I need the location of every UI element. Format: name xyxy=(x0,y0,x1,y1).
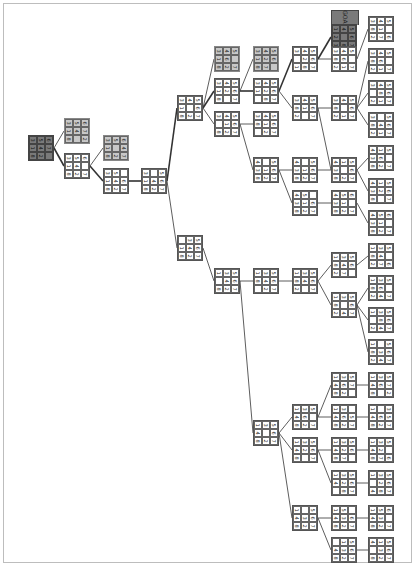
tree-node: 34512687 xyxy=(253,46,279,72)
puzzle-tile: 7 xyxy=(309,174,317,182)
puzzle-tile: 7 xyxy=(270,285,278,293)
puzzle-tile: 6 xyxy=(270,87,278,95)
puzzle-tile: 3 xyxy=(142,169,150,177)
tree-node: 34586217 xyxy=(331,95,357,121)
puzzle-tile: 7 xyxy=(309,421,317,429)
puzzle-tile: 5 xyxy=(270,269,278,277)
puzzle-tile: 5 xyxy=(348,47,356,55)
tree-edge xyxy=(357,256,368,265)
tree-node: 13526487 xyxy=(368,470,394,496)
tree-edge xyxy=(318,37,331,59)
puzzle-tile: 1 xyxy=(104,144,112,152)
blank-tile xyxy=(385,284,393,292)
puzzle-tile: 5 xyxy=(231,47,239,55)
puzzle-tile: 7 xyxy=(348,487,356,495)
puzzle-tile: 7 xyxy=(348,174,356,182)
puzzle-tile: 7 xyxy=(385,421,393,429)
puzzle-tile: 2 xyxy=(37,152,45,160)
puzzle-tile: 2 xyxy=(385,389,393,397)
tree-node: 45316827 xyxy=(292,157,318,183)
puzzle-tile: 6 xyxy=(348,479,356,487)
blank-tile xyxy=(348,269,356,277)
puzzle-tile: 6 xyxy=(385,187,393,195)
tree-node: 35146827 xyxy=(103,168,129,194)
tree-node: 34586217 xyxy=(368,80,394,106)
tree-edge xyxy=(240,281,253,433)
puzzle-tile: 6 xyxy=(309,199,317,207)
tree-node: 45631827 xyxy=(368,210,394,236)
puzzle-tile: 6 xyxy=(270,277,278,285)
tree-node: 41536827 xyxy=(368,145,394,171)
puzzle-tile: 7 xyxy=(309,285,317,293)
tree-edge xyxy=(357,108,368,125)
puzzle-tile: 5 xyxy=(385,471,393,479)
tree-node: 34586217 xyxy=(331,46,357,72)
tree-node: 13584627 xyxy=(292,268,318,294)
puzzle-tile: 5 xyxy=(270,79,278,87)
puzzle-tile: 6 xyxy=(348,166,356,174)
puzzle-tile: 3 xyxy=(340,405,348,413)
tree-node: 13546827 xyxy=(214,268,240,294)
tree-node: 15436827 xyxy=(331,537,357,563)
puzzle-tile: 6 xyxy=(348,301,356,309)
puzzle-tile: 6 xyxy=(385,454,393,462)
tree-node: 13586247 xyxy=(368,275,394,301)
puzzle-tile: 6 xyxy=(231,120,239,128)
puzzle-tile: 3 xyxy=(332,166,340,174)
puzzle-tile: 5 xyxy=(348,471,356,479)
tree-edge xyxy=(318,281,331,305)
puzzle-tile: 6 xyxy=(120,177,128,185)
tree-node: 41536827 xyxy=(368,537,394,563)
puzzle-tile: 6 xyxy=(340,55,348,63)
puzzle-tile: 6 xyxy=(377,284,385,292)
puzzle-tile: 6 xyxy=(385,348,393,356)
puzzle-tile: 6 xyxy=(385,506,393,514)
puzzle-tile: 6 xyxy=(348,546,356,554)
puzzle-tile: 5 xyxy=(309,158,317,166)
puzzle-tile: 3 xyxy=(385,405,393,413)
blank-tile xyxy=(348,405,356,413)
tree-node: 34512687 xyxy=(214,78,240,104)
tree-node: 13542687 xyxy=(292,437,318,463)
puzzle-tile: 5 xyxy=(348,538,356,546)
blank-tile xyxy=(385,219,393,227)
tree-node: 13546782 xyxy=(368,372,394,398)
tree-edge xyxy=(357,170,368,191)
tree-edge xyxy=(279,59,292,91)
tree-node: 34516827 xyxy=(214,46,240,72)
blank-tile xyxy=(309,191,317,199)
puzzle-tile: 5 xyxy=(385,438,393,446)
puzzle-tile: 5 xyxy=(270,421,278,429)
tree-edge xyxy=(167,181,177,248)
puzzle-tile: 3 xyxy=(377,514,385,522)
puzzle-tile: 7 xyxy=(385,522,393,530)
puzzle-tile: 5 xyxy=(270,158,278,166)
puzzle-tile: 7 xyxy=(231,285,239,293)
puzzle-tile: 5 xyxy=(309,405,317,413)
puzzle-tile: 7 xyxy=(81,170,89,178)
puzzle-tile: 1 xyxy=(377,25,385,33)
puzzle-tile: 6 xyxy=(231,87,239,95)
puzzle-tile: 7 xyxy=(348,63,356,71)
tree-node: 35614782 xyxy=(64,118,90,144)
tree-node: 35614827 xyxy=(103,135,129,161)
tree-edge xyxy=(357,29,368,59)
puzzle-tile: 5 xyxy=(385,340,393,348)
blank-tile xyxy=(385,57,393,65)
puzzle-tile: 5 xyxy=(385,146,393,154)
tree-node: 15436827 xyxy=(292,505,318,531)
puzzle-tile: 5 xyxy=(309,96,317,104)
puzzle-tile: 7 xyxy=(262,63,270,71)
tree-node: 13542687 xyxy=(331,437,357,463)
tree-edge xyxy=(279,417,292,433)
puzzle-tile: 5 xyxy=(348,373,356,381)
puzzle-tile: 2 xyxy=(377,446,385,454)
puzzle-tile: 7 xyxy=(348,309,356,317)
tree-node: 34581276 xyxy=(368,16,394,42)
puzzle-tile: 1 xyxy=(293,506,301,514)
puzzle-tile: 7 xyxy=(385,324,393,332)
puzzle-tile: 6 xyxy=(309,166,317,174)
puzzle-tile: 2 xyxy=(340,389,348,397)
puzzle-tile: 7 xyxy=(158,185,166,193)
puzzle-tile: 7 xyxy=(231,63,239,71)
